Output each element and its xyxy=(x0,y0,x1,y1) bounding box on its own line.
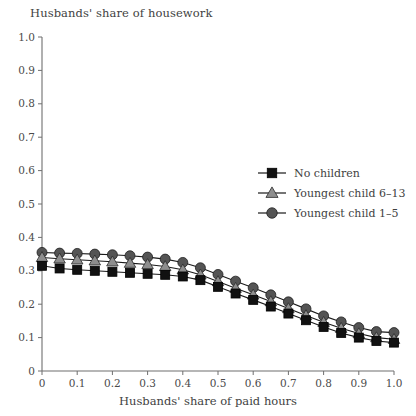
legend-item-1[interactable]: No children xyxy=(258,167,360,180)
marker-square xyxy=(196,276,205,285)
x-tick-label: 0.3 xyxy=(139,377,156,389)
marker-square xyxy=(126,268,135,277)
marker-square xyxy=(266,302,275,311)
marker-square xyxy=(319,322,328,331)
marker-square xyxy=(108,267,117,276)
y-tick-label: 0.8 xyxy=(18,97,35,109)
marker-square xyxy=(231,289,240,298)
marker-square xyxy=(55,264,64,273)
marker-square xyxy=(178,272,187,281)
y-axis-ticks: 00.10.20.30.40.50.60.70.80.91.0 xyxy=(18,31,42,377)
y-tick-label: 0.1 xyxy=(18,331,35,343)
data-series-layer xyxy=(36,247,400,347)
x-axis-ticks: 00.10.20.30.40.50.60.70.80.91.0 xyxy=(39,371,403,389)
x-tick-label: 0.2 xyxy=(104,377,121,389)
x-tick-label: 0.7 xyxy=(280,377,297,389)
x-tick-label: 0.8 xyxy=(315,377,332,389)
marker-square xyxy=(390,338,399,347)
y-tick-label: 1.0 xyxy=(18,31,35,43)
legend-label: Youngest child 6–13 xyxy=(293,187,406,200)
x-tick-label: 0.4 xyxy=(174,377,191,389)
x-tick-label: 0.9 xyxy=(350,377,367,389)
marker-square xyxy=(214,282,223,291)
marker-square xyxy=(354,333,363,342)
marker-square xyxy=(38,261,47,270)
legend-item-3[interactable]: Youngest child 1–5 xyxy=(258,207,399,220)
chart-canvas: 00.10.20.30.40.50.60.70.80.91.0 00.10.20… xyxy=(0,0,416,416)
marker-square xyxy=(73,265,82,274)
y-tick-label: 0.7 xyxy=(18,131,35,143)
x-tick-label: 0.6 xyxy=(245,377,262,389)
y-tick-label: 0.5 xyxy=(18,198,35,210)
chart-legend: No childrenYoungest child 6–13Youngest c… xyxy=(258,167,406,220)
x-tick-label: 0.5 xyxy=(210,377,227,389)
x-axis-title: Husbands' share of paid hours xyxy=(0,394,416,408)
x-tick-label: 1.0 xyxy=(386,377,403,389)
y-tick-label: 0.6 xyxy=(18,164,35,176)
marker-square xyxy=(267,168,276,177)
y-tick-label: 0.9 xyxy=(18,64,35,76)
legend-item-2[interactable]: Youngest child 6–13 xyxy=(258,187,406,200)
marker-square xyxy=(302,316,311,325)
legend-label: No children xyxy=(294,167,360,180)
marker-square xyxy=(337,328,346,337)
y-tick-label: 0 xyxy=(28,365,35,377)
x-tick-label: 0.1 xyxy=(69,377,86,389)
legend-label: Youngest child 1–5 xyxy=(293,207,399,220)
marker-square xyxy=(284,309,293,318)
marker-square xyxy=(90,266,99,275)
figure-container: Husbands' share of housework 00.10.20.30… xyxy=(0,0,416,416)
y-tick-label: 0.3 xyxy=(18,264,35,276)
marker-square xyxy=(161,270,170,279)
y-tick-label: 0.4 xyxy=(18,231,35,243)
marker-square xyxy=(372,336,381,345)
marker-circle xyxy=(267,208,278,219)
marker-triangle xyxy=(266,187,278,198)
marker-square xyxy=(143,269,152,278)
marker-square xyxy=(249,295,258,304)
x-tick-label: 0 xyxy=(39,377,46,389)
y-tick-label: 0.2 xyxy=(18,298,35,310)
